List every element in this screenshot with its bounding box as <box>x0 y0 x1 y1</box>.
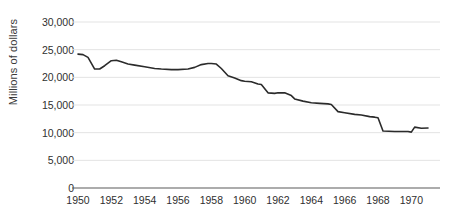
x-axis-tick-label: 1956 <box>166 194 189 206</box>
x-axis-tick-label: 1958 <box>200 194 223 206</box>
x-axis-tick-label: 1966 <box>333 194 356 206</box>
x-axis-tick-label: 1968 <box>366 194 389 206</box>
data-series-line <box>78 54 428 132</box>
x-axis-tick-label: 1964 <box>300 194 323 206</box>
x-axis-tick-label: 1970 <box>400 194 423 206</box>
x-axis-tick-label: 1954 <box>133 194 156 206</box>
x-axis-tick-label: 1952 <box>100 194 123 206</box>
line-chart: Millions of dollars 05,00010,00015,00020… <box>0 0 453 214</box>
x-axis-tick-label: 1960 <box>233 194 256 206</box>
x-axis-tick-label: 1962 <box>266 194 289 206</box>
gridlines <box>72 22 440 160</box>
plot-area <box>0 0 453 214</box>
x-axis-tick-label: 1950 <box>66 194 89 206</box>
